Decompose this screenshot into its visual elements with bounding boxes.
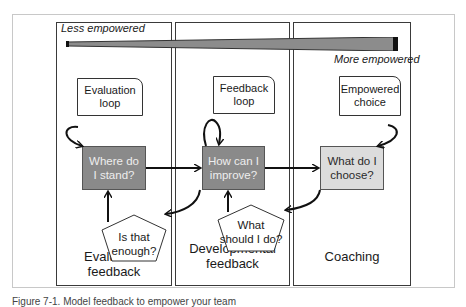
figure-caption: Figure 7-1. Model feedback to empower yo…: [12, 296, 236, 307]
